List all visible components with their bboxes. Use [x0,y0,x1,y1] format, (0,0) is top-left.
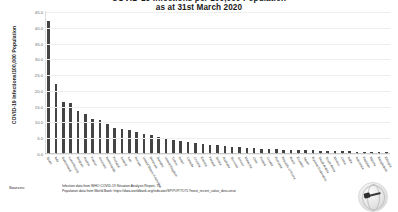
bar [84,114,87,153]
x-axis-tick-label: Iran [127,156,133,163]
bar [216,145,219,153]
bar-series [45,11,390,153]
bar [179,141,182,153]
bar [69,103,72,153]
bar [113,128,116,153]
y-axis-tick-label: 0.0 [13,152,43,157]
y-axis-tick-label: 20.0 [13,89,43,94]
gridline [45,28,390,29]
bar [209,145,212,153]
bar [172,140,175,153]
y-axis-tick-label: 45.0 [13,10,43,15]
bar [165,138,168,153]
bar [194,143,197,153]
plot-area: 45.040.035.030.025.020.015.010.05.00.0 [45,11,390,154]
gridline [45,44,390,45]
y-axis-tick-label: 10.0 [13,120,43,125]
y-axis-tick-label: 5.0 [13,136,43,141]
gridline [45,75,390,76]
bar [99,120,102,153]
y-axis-tick-label: 35.0 [13,42,43,47]
bar [55,84,58,153]
bar [202,144,205,153]
globe-arc-inner [367,184,380,211]
y-axis-tick-label: 30.0 [13,57,43,62]
bar [143,134,146,153]
bar [135,132,138,153]
gridline [45,59,390,60]
bar [91,119,94,153]
source-line-2: Population data from World Bank: https:/… [62,189,236,194]
y-axis-tick-label: 25.0 [13,73,43,78]
bar [121,129,124,153]
x-axis-tick-label: Italy [53,156,59,163]
bar [77,111,80,153]
y-axis-tick-label: 40.0 [13,26,43,31]
gridline [45,91,390,92]
x-axis-labels: SpainItalySwitzerlandLuxembourgBelgiumAu… [45,156,390,186]
gridline [45,107,390,108]
bar [224,146,227,153]
x-axis-tick-label: India [347,156,354,164]
bar [47,21,50,153]
covid-infections-bar-chart: COVID-19 Infections per 100,000 Populati… [0,0,398,212]
gridline [45,122,390,123]
bar [62,102,65,153]
sources-label: Sources: [9,185,25,190]
organisation-globe-icon [358,182,388,212]
gridline [45,138,390,139]
source-citations: Infection data from WHO COVID-19 Situati… [62,184,236,193]
bar [128,130,131,153]
bar [187,142,190,153]
y-axis-tick-label: 15.0 [13,105,43,110]
gridline [45,12,390,13]
